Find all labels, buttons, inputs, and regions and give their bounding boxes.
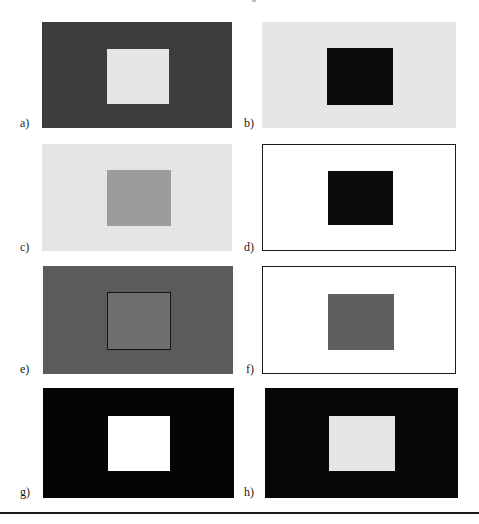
page-mark bbox=[252, 0, 256, 2]
panel-g-square bbox=[108, 416, 170, 471]
panel-c bbox=[42, 144, 232, 251]
panel-label-a: a) bbox=[20, 117, 29, 129]
panel-label-c: c) bbox=[20, 241, 29, 253]
bottom-rule bbox=[0, 512, 479, 514]
panel-a-square bbox=[107, 49, 169, 104]
panel-label-e: e) bbox=[20, 363, 29, 375]
panel-f-square bbox=[328, 294, 394, 350]
panel-label-f: f) bbox=[246, 363, 254, 375]
panel-b-square bbox=[327, 48, 393, 105]
panel-label-g: g) bbox=[20, 486, 30, 498]
panel-g bbox=[43, 388, 234, 498]
panel-h bbox=[265, 388, 458, 498]
panel-f bbox=[262, 266, 456, 374]
panel-c-square bbox=[107, 170, 171, 226]
panel-e-square bbox=[107, 292, 171, 350]
panel-h-square bbox=[329, 416, 395, 471]
panel-b bbox=[262, 22, 456, 128]
panel-label-b: b) bbox=[244, 117, 254, 129]
panel-d-square bbox=[328, 171, 393, 225]
panel-e bbox=[43, 266, 233, 374]
panel-label-h: h) bbox=[244, 486, 254, 498]
panel-d bbox=[262, 144, 456, 251]
panel-a bbox=[42, 22, 232, 128]
panel-label-d: d) bbox=[244, 241, 254, 253]
